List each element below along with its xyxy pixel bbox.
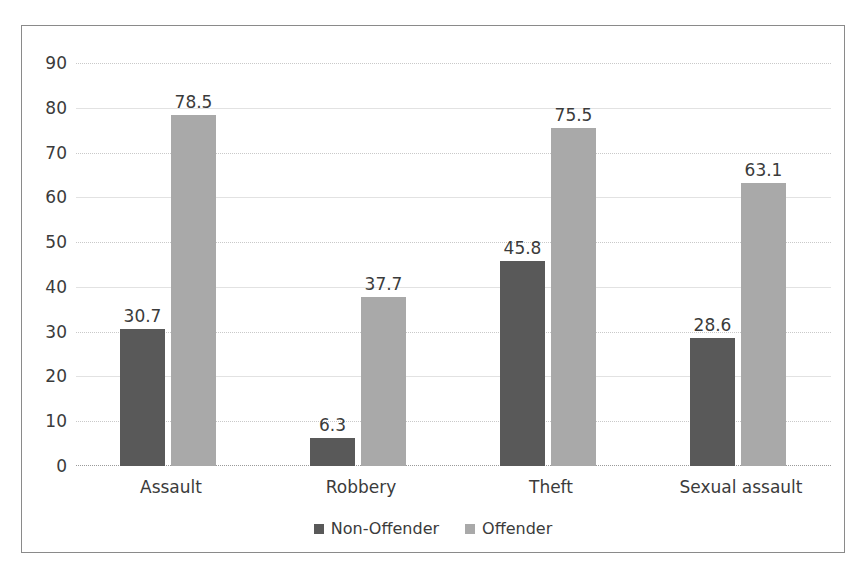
bar-sexual-assault-non-offender[interactable]: 28.6 [690, 338, 735, 466]
legend-label: Non-Offender [331, 521, 439, 537]
bars-layer: 30.7 78.5 Assault 6.3 37.7 Robbery 45.8 [76, 63, 831, 466]
y-axis-tick-50: 50 [45, 234, 67, 251]
y-axis-tick-30: 30 [45, 323, 67, 340]
y-axis-tick-70: 70 [45, 144, 67, 161]
bar-value-label: 63.1 [745, 162, 783, 179]
x-axis-category-robbery: Robbery [266, 479, 456, 496]
bar-value-label: 75.5 [555, 107, 593, 124]
chart-frame: 90 80 70 60 50 40 30 20 10 0 30.7 78.5 [21, 25, 845, 553]
y-axis-tick-90: 90 [45, 55, 67, 72]
bar-value-label: 6.3 [319, 417, 346, 434]
bar-group-theft: 45.8 75.5 Theft [456, 63, 646, 466]
x-axis-category-sexual-assault: Sexual assault [646, 479, 836, 496]
bar-robbery-non-offender[interactable]: 6.3 [310, 438, 355, 466]
bar-theft-non-offender[interactable]: 45.8 [500, 261, 545, 466]
bar-value-label: 30.7 [124, 308, 162, 325]
bar-theft-offender[interactable]: 75.5 [551, 128, 596, 466]
plot-area: 90 80 70 60 50 40 30 20 10 0 30.7 78.5 [76, 63, 831, 466]
chart-legend: Non-Offender Offender [22, 521, 844, 537]
bar-group-assault: 30.7 78.5 Assault [76, 63, 266, 466]
bar-assault-non-offender[interactable]: 30.7 [120, 329, 165, 466]
x-axis-category-theft: Theft [456, 479, 646, 496]
bar-sexual-assault-offender[interactable]: 63.1 [741, 183, 786, 466]
legend-entry-offender[interactable]: Offender [465, 521, 552, 537]
bar-value-label: 78.5 [175, 94, 213, 111]
x-axis-category-assault: Assault [76, 479, 266, 496]
legend-swatch-icon [314, 524, 324, 534]
y-axis-tick-10: 10 [45, 413, 67, 430]
legend-label: Offender [482, 521, 552, 537]
bar-value-label: 45.8 [504, 240, 542, 257]
y-axis-tick-60: 60 [45, 189, 67, 206]
legend-swatch-icon [465, 524, 475, 534]
bar-value-label: 28.6 [694, 317, 732, 334]
y-axis-tick-40: 40 [45, 278, 67, 295]
bar-group-sexual-assault: 28.6 63.1 Sexual assault [646, 63, 836, 466]
y-axis-tick-80: 80 [45, 99, 67, 116]
bar-group-robbery: 6.3 37.7 Robbery [266, 63, 456, 466]
bar-assault-offender[interactable]: 78.5 [171, 115, 216, 467]
bar-value-label: 37.7 [365, 276, 403, 293]
legend-entry-non-offender[interactable]: Non-Offender [314, 521, 439, 537]
y-axis-tick-0: 0 [56, 458, 67, 475]
bar-robbery-offender[interactable]: 37.7 [361, 297, 406, 466]
y-axis-tick-20: 20 [45, 368, 67, 385]
